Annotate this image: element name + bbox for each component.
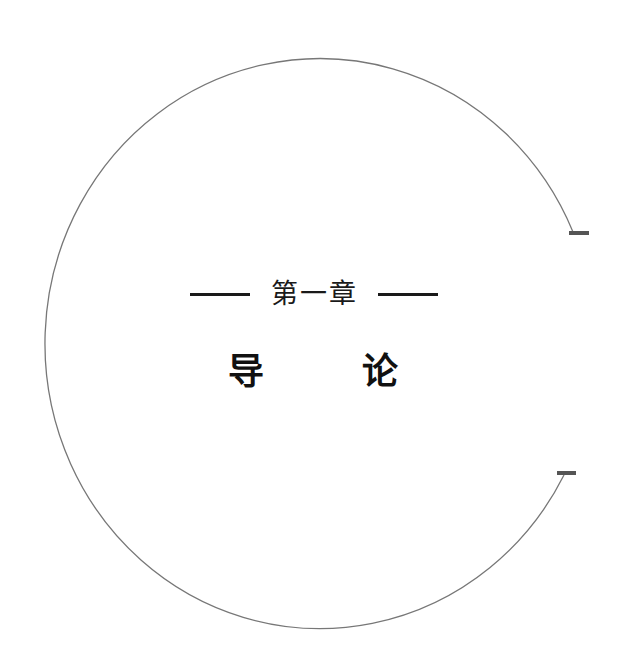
decorative-arc-frame xyxy=(0,0,629,671)
title-char-2: 论 xyxy=(362,350,398,394)
chapter-title: 导 论 xyxy=(228,350,398,394)
upper-tick-mark xyxy=(569,231,589,235)
arc-line xyxy=(45,59,573,629)
title-char-1: 导 xyxy=(228,350,264,394)
right-dash-divider xyxy=(378,293,438,296)
chapter-title-page: 第一章 导 论 xyxy=(0,0,629,671)
chapter-number: 第一章 xyxy=(271,279,358,309)
left-dash-divider xyxy=(190,293,250,296)
chapter-heading: 第一章 xyxy=(190,279,438,309)
lower-tick-mark xyxy=(557,471,576,475)
